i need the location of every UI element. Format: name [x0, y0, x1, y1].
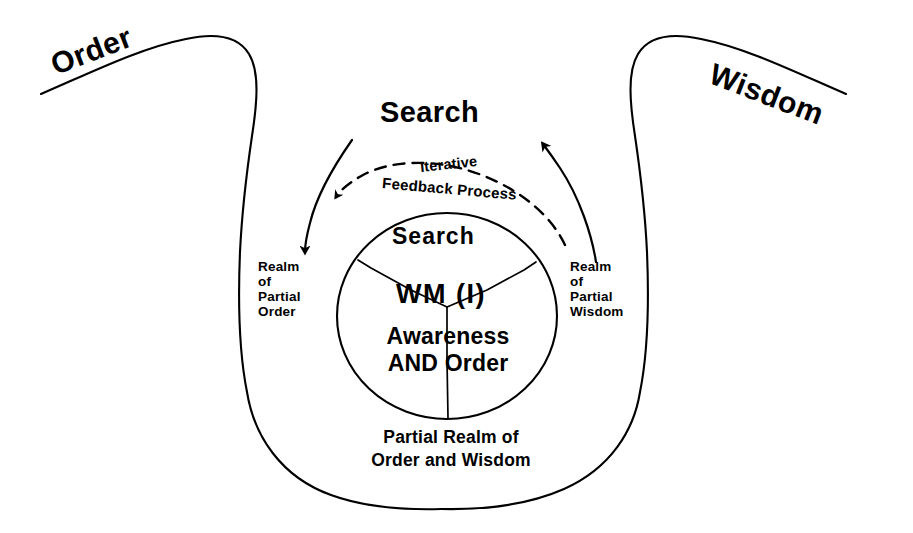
page-title-search: Search: [380, 96, 479, 128]
realm-label-partial-order: Realm of Partial Order: [258, 259, 301, 319]
core-label-wm: WM (I): [396, 279, 486, 309]
arrow-search-to-order: [305, 140, 352, 252]
core-label-awareness-and-order: Awareness AND Order: [355, 323, 541, 377]
diagram-canvas: Order Wisdom Search Iterative Feedback P…: [0, 0, 913, 533]
realm-label-bottom: Partial Realm of Order and Wisdom: [306, 426, 596, 472]
arrow-wisdom-to-search: [543, 144, 596, 262]
outer-boundary-left-horn: [41, 36, 257, 392]
core-label-search: Search: [392, 224, 475, 250]
realm-label-partial-wisdom: Realm of Partial Wisdom: [570, 259, 624, 319]
